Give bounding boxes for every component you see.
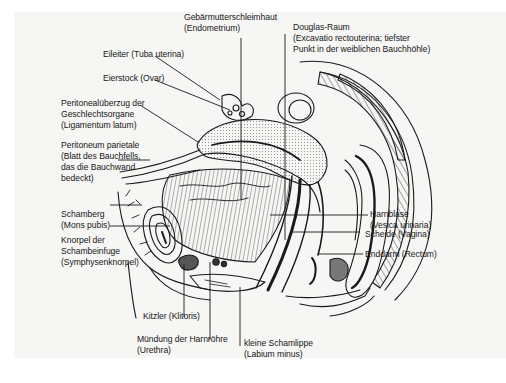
label-endometrium: Gebärmutterschleimhaut (Endometrium) — [184, 12, 277, 34]
label-enddarm-line1: Enddarm (Rectum) — [365, 249, 437, 260]
label-kitzler: Kitzler (Klitoris) — [143, 311, 200, 322]
label-schamlippe-line1: kleine Schamlippe — [244, 338, 313, 349]
label-schamberg-line1: Schamberg — [61, 209, 110, 220]
bladder — [162, 169, 290, 262]
label-peritonealueberzug-line1: Peritonealüberzug der — [61, 98, 145, 109]
label-eierstock: Eierstock (Ovar) — [103, 73, 164, 84]
label-enddarm: Enddarm (Rectum) — [365, 249, 437, 260]
label-peritonealueberzug-line2: Geschlechtsorgane — [61, 109, 145, 120]
label-schamberg: Schamberg (Mons pubis) — [61, 209, 110, 231]
diagram-canvas: Gebärmutterschleimhaut (Endometrium) Dou… — [0, 0, 506, 383]
label-harnblase-line1: Harnblase — [370, 209, 431, 220]
label-peritonealueberzug: Peritonealüberzug der Geschlechtsorgane … — [61, 98, 145, 131]
label-knorpel-line3: (Symphysenknorpel) — [61, 257, 139, 268]
label-knorpel-line2: Schambeinfuge — [61, 246, 139, 257]
clitoris — [179, 255, 199, 270]
label-schamlippe-line2: (Labium minus) — [244, 349, 313, 360]
label-douglas-line1: Douglas-Raum — [293, 22, 430, 33]
label-knorpel-line1: Knorpel der — [61, 235, 139, 246]
label-eierstock-line1: Eierstock (Ovar) — [103, 73, 164, 84]
label-peritoneum-line1: Peritoneum parietale — [61, 140, 141, 151]
label-symphysenknorpel: Knorpel der Schambeinfuge (Symphysenknor… — [61, 235, 139, 268]
label-douglas-raum: Douglas-Raum (Excavatio rectouterina; ti… — [293, 22, 430, 55]
label-peritonealueberzug-line3: (Ligamentum latum) — [61, 120, 145, 131]
labium-minus — [190, 274, 265, 291]
ovary — [278, 93, 314, 123]
label-schamlippe: kleine Schamlippe (Labium minus) — [244, 338, 313, 360]
label-douglas-line2: (Excavatio rectouterina; tiefster — [293, 33, 430, 44]
label-peritoneum-parietale: Peritoneum parietale (Blatt des Bauchfel… — [61, 140, 141, 184]
label-endometrium-line1: Gebärmutterschleimhaut — [184, 12, 277, 23]
label-endometrium-line2: (Endometrium) — [184, 23, 277, 34]
label-peritoneum-line4: bedeckt) — [61, 173, 141, 184]
label-peritoneum-line2: (Blatt des Bauchfells, — [61, 151, 141, 162]
label-schamberg-line2: (Mons pubis) — [61, 220, 110, 231]
label-kitzler-line1: Kitzler (Klitoris) — [143, 311, 200, 322]
label-harnblase: Harnblase (Vesica urinaria) — [370, 209, 431, 231]
label-douglas-line3: Punkt in der weiblichen Bauchhöhle) — [293, 44, 430, 55]
label-eileiter-line1: Eileiter (Tuba uterina) — [103, 49, 184, 60]
label-scheide-line1: Scheide (Vagina) — [365, 229, 430, 240]
label-peritoneum-line3: das die Bauchwand — [61, 162, 141, 173]
label-harnroehre-line2: (Urethra) — [137, 345, 228, 356]
label-harnroehre: Mündung der Harnröhre (Urethra) — [137, 334, 228, 356]
urethra-opening — [213, 259, 219, 265]
label-scheide: Scheide (Vagina) — [365, 229, 430, 240]
label-eileiter: Eileiter (Tuba uterina) — [103, 49, 184, 60]
label-harnroehre-line1: Mündung der Harnröhre — [137, 334, 228, 345]
pelvis-illustration — [0, 0, 506, 383]
